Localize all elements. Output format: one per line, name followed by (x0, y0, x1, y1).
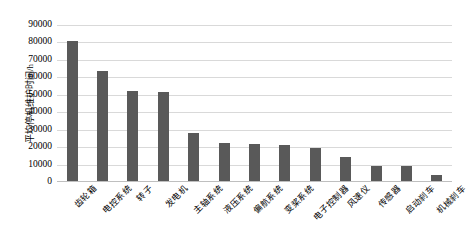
y-axis-tick-label: 20000 (8, 142, 52, 152)
y-axis-tick-label: 70000 (8, 55, 52, 65)
y-axis-tick-label: 40000 (8, 107, 52, 117)
bar (219, 143, 230, 181)
x-axis-tick-label-slot: 电控系统 (87, 184, 117, 193)
x-axis-tick-label-slot: 偏航系统 (239, 184, 269, 193)
x-axis-tick-label-slot: 主轴系统 (179, 184, 209, 193)
x-axis-tick-label: 机械刹车 (435, 184, 467, 216)
x-axis-line (57, 181, 452, 182)
bar-slot (148, 24, 178, 181)
bar-slot (209, 24, 239, 181)
bar-slot (118, 24, 148, 181)
y-axis-tick-label: 0 (8, 177, 52, 187)
bar (310, 148, 321, 181)
y-axis-tick-labels: 9000080000700006000050000400003000020000… (0, 25, 57, 182)
x-axis-tick-label-slot: 机械刹车 (422, 184, 452, 193)
bar (340, 157, 351, 181)
bar-slot (422, 24, 452, 181)
x-axis-tick-label-slot: 转子 (118, 184, 148, 193)
bar (249, 144, 260, 181)
bar-slot (361, 24, 391, 181)
y-axis-tick-label: 30000 (8, 125, 52, 135)
bar (401, 166, 412, 181)
x-axis-tick-labels: 齿轮箱电控系统转子发电机主轴系统液压系统偏航系统变桨系统电子控制器风速仪传感器启… (57, 184, 452, 244)
x-axis-tick-label-slot: 传感器 (361, 184, 391, 193)
bar (127, 91, 138, 181)
bar-slot (270, 24, 300, 181)
x-axis-tick-label-slot: 启动刹车 (391, 184, 421, 193)
bar (97, 71, 108, 181)
bar-slot (239, 24, 269, 181)
bar-slot (57, 24, 87, 181)
x-axis-tick-label-slot: 齿轮箱 (57, 184, 87, 193)
x-axis-tick-label-slot: 风速仪 (330, 184, 360, 193)
bar (188, 133, 199, 181)
bar (431, 175, 442, 181)
x-axis-tick-label-slot: 发电机 (148, 184, 178, 193)
x-axis-tick-label-slot: 电子控制器 (300, 184, 330, 193)
bar (371, 166, 382, 181)
y-axis-tick-label: 10000 (8, 160, 52, 170)
y-axis-tick-label: 80000 (8, 37, 52, 47)
y-axis-tick-label: 60000 (8, 72, 52, 82)
bar-slot (87, 24, 117, 181)
x-axis-tick-label-slot: 液压系统 (209, 184, 239, 193)
bar-series (57, 24, 452, 181)
bar-slot (330, 24, 360, 181)
bar (67, 41, 78, 181)
bar-slot (391, 24, 421, 181)
y-axis-tick-label: 90000 (8, 20, 52, 30)
bar-slot (179, 24, 209, 181)
plot-area (57, 25, 452, 182)
y-axis-tick-label: 50000 (8, 90, 52, 100)
bar (279, 145, 290, 181)
bar-slot (300, 24, 330, 181)
x-axis-tick-label-slot: 变桨系统 (270, 184, 300, 193)
bar (158, 92, 169, 181)
